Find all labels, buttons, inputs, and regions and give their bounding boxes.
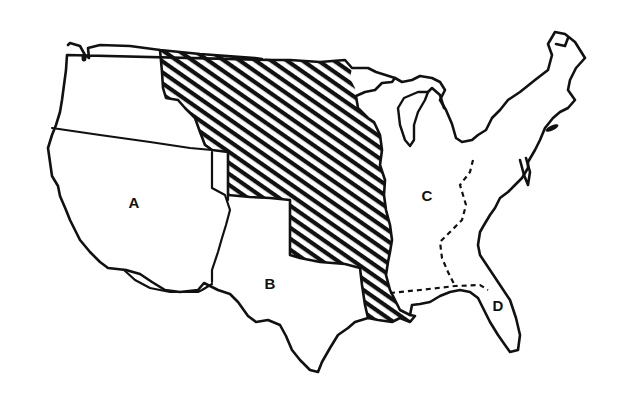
puget-sound bbox=[82, 55, 87, 62]
dashed-boundary-east bbox=[440, 160, 473, 286]
region-label-a: A bbox=[129, 195, 140, 210]
us-outline-map bbox=[0, 0, 627, 395]
region-label-c: C bbox=[422, 188, 433, 203]
region-label-d: D bbox=[493, 298, 504, 313]
dashed-boundary-south bbox=[390, 285, 488, 293]
lake-michigan bbox=[398, 92, 428, 146]
maine-notch bbox=[556, 38, 568, 46]
region-label-b: B bbox=[265, 276, 276, 291]
boundary-42nd-parallel bbox=[52, 128, 212, 150]
